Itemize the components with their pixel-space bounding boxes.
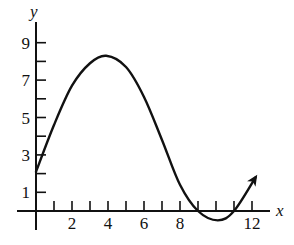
function-graph: 246812 13579 x y	[0, 0, 294, 245]
y-tick-label: 5	[22, 109, 31, 128]
y-tick-label: 1	[22, 183, 31, 202]
function-curve	[36, 56, 256, 221]
y-tick-label: 9	[22, 34, 31, 53]
x-tick-label: 2	[68, 214, 77, 233]
y-axis-label: y	[28, 2, 38, 21]
axes	[17, 22, 270, 230]
y-tick-label: 3	[22, 146, 31, 165]
x-tick-label: 12	[244, 214, 261, 233]
y-tick-labels: 13579	[22, 34, 31, 203]
x-tick-label: 4	[104, 214, 113, 233]
x-tick-labels: 246812	[68, 214, 261, 233]
x-tick-label: 8	[176, 214, 185, 233]
x-axis-label: x	[275, 201, 284, 220]
x-ticks	[54, 201, 252, 211]
y-tick-label: 7	[22, 71, 31, 90]
x-tick-label: 6	[140, 214, 149, 233]
